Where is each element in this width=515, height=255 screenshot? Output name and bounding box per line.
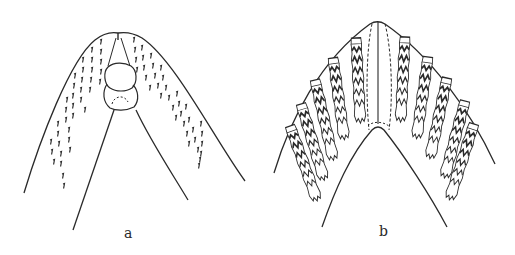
panel-a-right-teeth <box>133 38 203 169</box>
panel-label-b: b <box>379 223 388 239</box>
figure-drawing <box>0 0 515 255</box>
panel-b-left-plates <box>285 38 367 203</box>
figure: a b <box>0 0 515 255</box>
panel-b-right-plates <box>395 37 480 202</box>
panel-a <box>24 33 245 230</box>
panel-a-left-teeth <box>50 40 102 189</box>
panel-a-outer-outline <box>24 33 245 193</box>
panel-b <box>274 22 495 227</box>
panel-a-central-oval <box>105 63 136 91</box>
panel-label-a: a <box>124 225 132 241</box>
